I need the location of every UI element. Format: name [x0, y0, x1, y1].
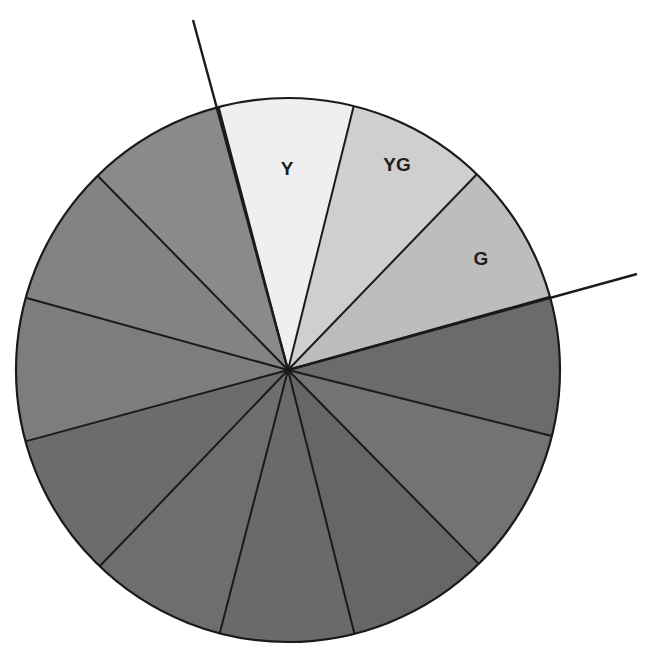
- color-wheel-diagram: Y YG G: [0, 0, 660, 658]
- segment-label-g: G: [474, 248, 489, 269]
- segment-label-y: Y: [281, 158, 294, 179]
- segment-label-yg: YG: [383, 154, 410, 175]
